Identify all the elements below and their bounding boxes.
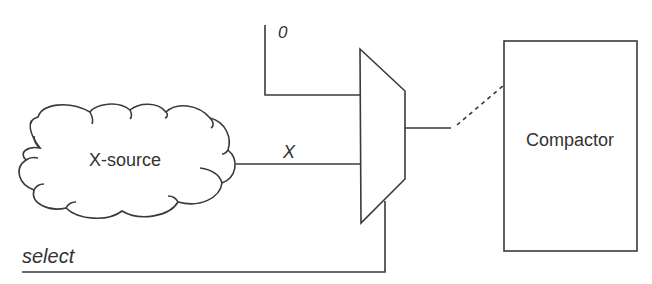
x-source-label: X-source xyxy=(89,150,161,170)
diagram-canvas: 0 X-source X select Compactor xyxy=(0,0,652,284)
select-label: select xyxy=(22,245,76,267)
x-input-label: X xyxy=(282,142,296,162)
multiplexer xyxy=(360,49,405,223)
zero-input-label: 0 xyxy=(278,23,288,42)
dashed-connection xyxy=(457,85,504,125)
compactor-label: Compactor xyxy=(526,130,614,150)
